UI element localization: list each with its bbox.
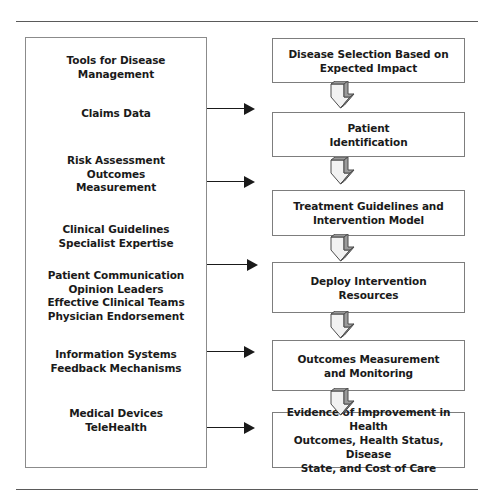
process-label-line: and Monitoring [297, 366, 439, 380]
arrow-shaft [207, 181, 245, 182]
enabler-line: Opinion Leaders [25, 283, 207, 297]
arrow-head-icon [244, 422, 255, 434]
horizontal-arrow-to-deploy-intervention [207, 259, 258, 271]
arrow-head-icon [244, 103, 255, 115]
arrow-head-icon [244, 176, 255, 188]
top-divider-rule [16, 21, 478, 22]
process-box-label: Treatment Guidelines andIntervention Mod… [287, 199, 449, 227]
process-box-label: PatientIdentification [323, 121, 413, 149]
arrow-head-icon [244, 346, 255, 358]
enabler-line: Physician Endorsement [25, 310, 207, 324]
process-box-evidence-of-improvement[interactable]: Evidence of Improvement in HealthOutcome… [272, 412, 465, 468]
down-block-arrow-icon [325, 311, 359, 341]
arrow-head-icon [247, 259, 258, 271]
process-box-patient-identification[interactable]: PatientIdentification [272, 112, 465, 157]
horizontal-arrow-to-treatment-guidelines [207, 176, 255, 188]
process-box-label: Deploy InterventionResources [304, 274, 432, 302]
enabler-medical-devices-telehealth: Medical DevicesTeleHealth [25, 407, 207, 434]
enabler-line: Measurement [25, 181, 207, 195]
tools-and-enablers-panel [25, 37, 207, 468]
enabler-line: Tools for Disease [25, 54, 207, 68]
enabler-line: Medical Devices [25, 407, 207, 421]
enabler-line: Clinical Guidelines [25, 223, 207, 237]
enabler-information-systems-feedback-mechanisms: Information SystemsFeedback Mechanisms [25, 348, 207, 375]
down-block-arrow-icon [325, 157, 359, 187]
process-label-line: Resources [310, 288, 426, 302]
enabler-line: Feedback Mechanisms [25, 362, 207, 376]
horizontal-arrow-to-patient-identification [207, 103, 255, 115]
process-label-line: Deploy Intervention [310, 274, 426, 288]
arrow-shaft [207, 427, 245, 428]
process-box-deploy-intervention-resources[interactable]: Deploy InterventionResources [272, 262, 465, 313]
down-block-arrow-icon [325, 388, 359, 418]
horizontal-arrow-to-outcomes-measurement [207, 346, 255, 358]
process-label-line: State, and Cost of Care [279, 461, 458, 475]
process-label-line: Outcomes, Health Status, Disease [279, 433, 458, 461]
horizontal-arrow-to-evidence-of-improvement [207, 422, 255, 434]
process-label-line: Evidence of Improvement in Health [279, 405, 458, 433]
vertical-3d-down-arrow-5 [325, 388, 359, 418]
vertical-3d-down-arrow-4 [325, 311, 359, 341]
enabler-line: Specialist Expertise [25, 237, 207, 251]
enabler-line: Claims Data [25, 107, 207, 121]
down-block-arrow-icon [325, 81, 359, 111]
enabler-line: Information Systems [25, 348, 207, 362]
vertical-3d-down-arrow-1 [325, 81, 359, 111]
enabler-line: Patient Communication [25, 269, 207, 283]
process-label-line: Identification [329, 135, 407, 149]
process-label-line: Treatment Guidelines and [293, 199, 443, 213]
vertical-3d-down-arrow-2 [325, 157, 359, 187]
bottom-divider-rule [16, 489, 478, 490]
process-label-line: Disease Selection Based on [288, 47, 448, 61]
arrow-shaft [207, 351, 245, 352]
enabler-line: Outcomes [25, 168, 207, 182]
enabler-line: Risk Assessment [25, 154, 207, 168]
enabler-line: Effective Clinical Teams [25, 296, 207, 310]
process-label-line: Intervention Model [293, 213, 443, 227]
enabler-clinical-guidelines-specialist-expertise: Clinical GuidelinesSpecialist Expertise [25, 223, 207, 250]
enabler-patient-communication-group: Patient CommunicationOpinion LeadersEffe… [25, 269, 207, 323]
process-label-line: Patient [329, 121, 407, 135]
process-box-label: Evidence of Improvement in HealthOutcome… [273, 405, 464, 475]
enabler-risk-assessment-outcomes-measurement: Risk AssessmentOutcomesMeasurement [25, 154, 207, 195]
arrow-shaft [207, 264, 248, 265]
enabler-tools-for-disease-management: Tools for DiseaseManagement [25, 54, 207, 81]
enabler-claims-data: Claims Data [25, 107, 207, 121]
enabler-line: TeleHealth [25, 421, 207, 435]
process-box-treatment-guidelines[interactable]: Treatment Guidelines andIntervention Mod… [272, 190, 465, 236]
disease-management-flow-diagram: Tools for DiseaseManagementClaims DataRi… [0, 0, 492, 500]
process-label-line: Outcomes Measurement [297, 352, 439, 366]
down-block-arrow-icon [325, 234, 359, 264]
arrow-shaft [207, 108, 245, 109]
process-box-outcomes-measurement-monitoring[interactable]: Outcomes Measurementand Monitoring [272, 340, 465, 391]
process-box-label: Disease Selection Based onExpected Impac… [282, 47, 454, 75]
vertical-3d-down-arrow-3 [325, 234, 359, 264]
process-box-label: Outcomes Measurementand Monitoring [291, 352, 445, 380]
process-label-line: Expected Impact [288, 61, 448, 75]
process-box-disease-selection[interactable]: Disease Selection Based onExpected Impac… [272, 38, 465, 83]
enabler-line: Management [25, 68, 207, 82]
